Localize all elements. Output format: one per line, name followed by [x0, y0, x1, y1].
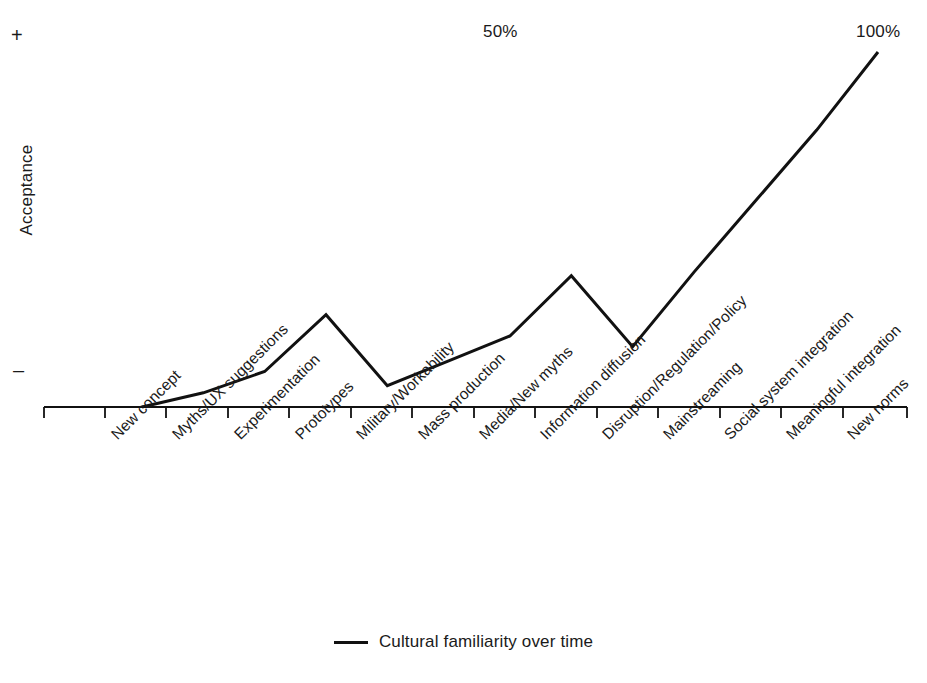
chart-container: Acceptance + – 50% 100% New conceptMyths…: [0, 0, 927, 683]
x-axis-ticks: [44, 407, 907, 418]
y-axis-title: Acceptance: [17, 130, 37, 250]
chart-plot-area: [0, 0, 927, 683]
legend-label: Cultural familiarity over time: [379, 632, 593, 652]
annotation-50-percent: 50%: [483, 22, 518, 42]
y-axis-high-marker: +: [11, 25, 23, 45]
legend-line-swatch: [334, 641, 368, 644]
annotation-100-percent: 100%: [856, 22, 900, 42]
y-axis-low-marker: –: [13, 360, 24, 380]
chart-legend: Cultural familiarity over time: [0, 632, 927, 652]
